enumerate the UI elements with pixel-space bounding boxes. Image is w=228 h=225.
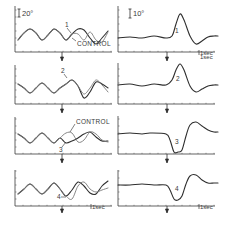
figure-canvas: 20° 10° 1 CONTROL 1 1sec 2 2 1sec CONTRO… bbox=[0, 0, 228, 225]
panel-right-3-axes bbox=[118, 116, 215, 154]
trace-label-2-right: 2 bbox=[176, 75, 180, 82]
scale-label-left: 20° bbox=[22, 9, 33, 18]
stimulus-arrow-right-3 bbox=[166, 154, 169, 163]
trace-label-4-right: 4 bbox=[175, 185, 179, 192]
control-label-1: CONTROL bbox=[77, 40, 111, 47]
panel-right-4-axes bbox=[118, 170, 215, 206]
trace-left-3-control bbox=[18, 132, 108, 143]
time-scale-marks bbox=[91, 50, 199, 209]
stimulus-arrow-left-3 bbox=[61, 154, 64, 163]
left-column-axes bbox=[15, 6, 112, 206]
panel-right-2-axes bbox=[118, 63, 215, 104]
control-label-3: CONTROL bbox=[76, 118, 110, 125]
stimulus-arrow-right-1 bbox=[166, 52, 169, 61]
scale-label-right: 10° bbox=[133, 9, 144, 18]
trace-right-1-test bbox=[118, 14, 218, 44]
trace-right-2-test bbox=[118, 64, 218, 92]
scale-bar-left bbox=[18, 9, 21, 17]
pointer-3 bbox=[62, 142, 66, 147]
stimulus-arrow-right-2 bbox=[166, 104, 169, 113]
pointer-2 bbox=[64, 74, 67, 78]
trace-label-3: 3 bbox=[59, 146, 63, 153]
trace-right-3-test bbox=[118, 122, 218, 153]
scale-bar-right bbox=[129, 9, 132, 18]
trace-left-2-test bbox=[18, 80, 108, 98]
trace-label-3-right: 3 bbox=[175, 138, 179, 145]
axis-ticks bbox=[15, 10, 214, 206]
trace-left-3-test bbox=[18, 132, 108, 143]
pointer-1 bbox=[67, 28, 71, 33]
trace-label-4: 4 bbox=[57, 193, 61, 200]
time-label-right-4: 1sec bbox=[200, 204, 213, 210]
stimulus-arrow-left-1 bbox=[61, 52, 64, 61]
trace-label-1-right: 1 bbox=[175, 27, 179, 34]
right-column-axes bbox=[118, 6, 215, 206]
trace-left-4-test bbox=[18, 181, 108, 196]
stimulus-arrow-left-2 bbox=[61, 104, 64, 113]
stimulus-arrow-right-4 bbox=[166, 206, 169, 213]
trace-label-2: 2 bbox=[61, 67, 65, 74]
control-pointer-1 bbox=[72, 38, 76, 41]
trace-right-4-test bbox=[118, 175, 218, 201]
panel-left-4-axes bbox=[15, 170, 112, 206]
trace-left-2-control bbox=[18, 80, 108, 94]
time-label-right-2: 1sec bbox=[200, 54, 213, 60]
time-label-left-4: 1sec bbox=[92, 204, 105, 210]
control-pointer-3 bbox=[70, 124, 75, 132]
trace-label-1: 1 bbox=[65, 21, 69, 28]
stimulus-arrow-left-4 bbox=[61, 206, 64, 213]
